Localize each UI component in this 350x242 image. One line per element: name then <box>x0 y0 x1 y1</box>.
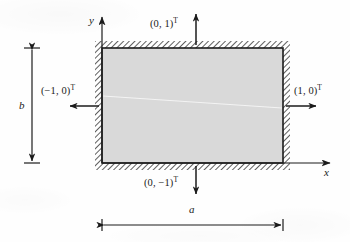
height-dimension-line <box>24 48 40 163</box>
transpose-superscript-top: T <box>173 16 178 25</box>
figure-canvas: y x (0, 1)T (0, −1)T (−1, 0)T (1, 0)T a … <box>0 0 350 242</box>
transpose-superscript-left: T <box>70 83 75 92</box>
transpose-superscript-bottom: T <box>173 175 178 184</box>
width-dimension-label: a <box>189 204 195 215</box>
left-normal-label: (−1, 0)T <box>41 86 75 97</box>
transpose-superscript-right: T <box>317 83 322 92</box>
x-axis-label: x <box>324 167 329 178</box>
bottom-normal-label: (0, −1)T <box>144 178 178 189</box>
y-axis-label: y <box>89 15 94 26</box>
right-normal-label: (1, 0)T <box>294 86 322 97</box>
height-dimension-label: b <box>19 100 25 111</box>
diagram-vector-graphics <box>0 0 350 242</box>
top-normal-label: (0, 1)T <box>150 19 178 30</box>
width-dimension-line <box>102 219 283 231</box>
domain-rectangle <box>102 48 283 163</box>
